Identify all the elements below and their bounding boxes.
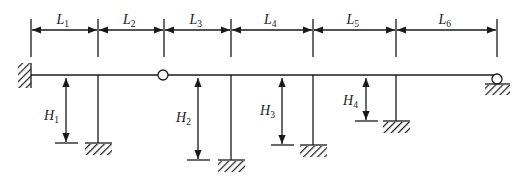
span-label-L6: L6 xyxy=(438,12,452,29)
span-label-L3: L3 xyxy=(189,12,203,29)
structural-diagram: L1L2L3L4L5L6 H1H2H3H4 xyxy=(0,0,527,182)
column-fixed-base-icon xyxy=(300,146,327,157)
span-label-L1: L1 xyxy=(56,12,70,29)
span-label-L4: L4 xyxy=(263,12,277,29)
column-fixed-base-icon xyxy=(218,161,245,172)
fixed-support-icon xyxy=(18,63,31,88)
span-dimension-group: L1L2L3L4L5L6 xyxy=(31,12,497,57)
columns-group: H1H2H3H4 xyxy=(43,75,410,172)
height-label-H1: H1 xyxy=(43,108,59,125)
roller-support-icon xyxy=(492,74,502,84)
supports-group xyxy=(18,63,510,95)
span-label-L5: L5 xyxy=(346,12,360,29)
height-label-H2: H2 xyxy=(175,110,191,127)
hinge-icon xyxy=(158,70,168,80)
span-label-L2: L2 xyxy=(122,12,136,29)
roller-ground-hatch-icon xyxy=(485,85,510,95)
height-label-H4: H4 xyxy=(342,93,358,110)
column-fixed-base-icon xyxy=(383,122,410,133)
column-fixed-base-icon xyxy=(85,144,112,155)
height-label-H3: H3 xyxy=(259,103,275,120)
